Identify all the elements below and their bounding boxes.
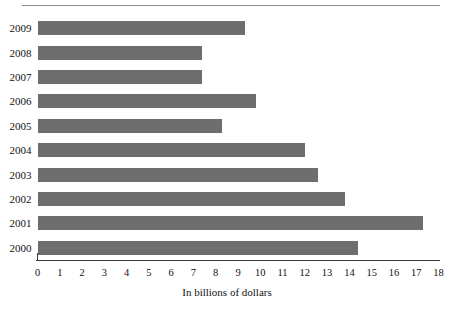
bar-chart-figure: 2009200820072006200520042003200220012000… bbox=[0, 0, 454, 315]
bar bbox=[38, 143, 305, 157]
bar-row: 2008 bbox=[38, 40, 439, 64]
bar-row: 2003 bbox=[38, 162, 439, 186]
x-tick-label: 5 bbox=[146, 268, 151, 279]
category-label: 2003 bbox=[10, 169, 32, 180]
bar bbox=[38, 192, 345, 206]
x-tick-label: 0 bbox=[35, 268, 40, 279]
x-tick-label: 7 bbox=[191, 268, 196, 279]
bar bbox=[38, 46, 203, 60]
x-tick-label: 2 bbox=[79, 268, 84, 279]
x-tick-label: 17 bbox=[411, 268, 422, 279]
bar-row: 2000 bbox=[38, 236, 439, 260]
category-label: 2000 bbox=[10, 242, 32, 253]
bar-row: 2007 bbox=[38, 65, 439, 89]
x-tick-label: 13 bbox=[322, 268, 333, 279]
x-tick-label: 9 bbox=[235, 268, 240, 279]
plot-area: 2009200820072006200520042003200220012000 bbox=[38, 16, 439, 260]
bar bbox=[38, 216, 423, 230]
bar bbox=[38, 94, 256, 108]
y-axis-origin-tick bbox=[37, 253, 38, 261]
x-tick-label: 6 bbox=[169, 268, 174, 279]
x-tick-label: 11 bbox=[277, 268, 287, 279]
bar-row: 2005 bbox=[38, 114, 439, 138]
x-tick-label: 10 bbox=[255, 268, 266, 279]
bar-row: 2002 bbox=[38, 187, 439, 211]
category-label: 2007 bbox=[10, 71, 32, 82]
x-tick-label: 3 bbox=[102, 268, 107, 279]
category-label: 2005 bbox=[10, 120, 32, 131]
bar bbox=[38, 70, 203, 84]
x-axis-title: In billions of dollars bbox=[0, 287, 454, 298]
bar-row: 2001 bbox=[38, 211, 439, 235]
x-tick-label: 12 bbox=[300, 268, 311, 279]
bar bbox=[38, 21, 245, 35]
category-label: 2008 bbox=[10, 47, 32, 58]
bar bbox=[38, 119, 223, 133]
x-tick-label: 4 bbox=[124, 268, 129, 279]
x-tick-label: 16 bbox=[389, 268, 400, 279]
category-label: 2004 bbox=[10, 145, 32, 156]
x-tick-label: 15 bbox=[366, 268, 377, 279]
bar bbox=[38, 168, 319, 182]
category-label: 2002 bbox=[10, 193, 32, 204]
bar bbox=[38, 241, 359, 255]
bar-row: 2009 bbox=[38, 16, 439, 40]
x-axis-tick-labels: 0123456789101112131415161718 bbox=[38, 268, 439, 284]
top-horizontal-rule bbox=[22, 5, 440, 6]
x-tick-label: 8 bbox=[213, 268, 218, 279]
x-axis-line bbox=[36, 260, 440, 261]
category-label: 2001 bbox=[10, 218, 32, 229]
bar-row: 2006 bbox=[38, 89, 439, 113]
x-tick-label: 14 bbox=[344, 268, 355, 279]
category-label: 2006 bbox=[10, 96, 32, 107]
x-tick-label: 18 bbox=[433, 268, 444, 279]
x-tick-label: 1 bbox=[57, 268, 62, 279]
bar-row: 2004 bbox=[38, 138, 439, 162]
category-label: 2009 bbox=[10, 23, 32, 34]
